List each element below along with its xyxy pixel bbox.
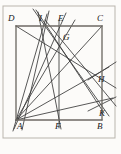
point-label-f: F: [55, 122, 61, 131]
point-label-d: D: [8, 14, 15, 23]
point-label-h: H: [98, 75, 105, 84]
geometry-figure: DIECGHKAFB: [0, 0, 121, 154]
point-label-a: A: [17, 122, 23, 131]
point-label-e: E: [58, 14, 64, 23]
point-label-k: K: [99, 109, 105, 118]
point-label-g: G: [63, 33, 70, 42]
point-label-i: I: [39, 14, 42, 23]
point-label-c: C: [97, 14, 103, 23]
point-label-b: B: [97, 122, 103, 131]
